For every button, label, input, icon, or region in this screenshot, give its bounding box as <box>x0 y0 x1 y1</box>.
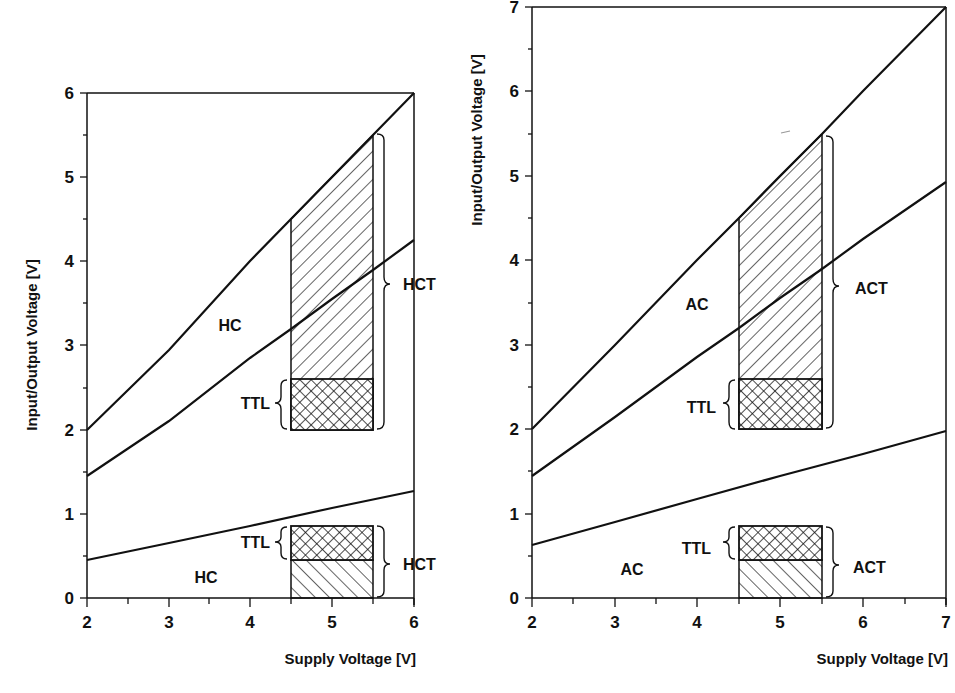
right-ac-label-lower: AC <box>620 561 644 578</box>
right-xtick-2: 4 <box>692 613 702 632</box>
right-x-ticks <box>532 598 946 607</box>
right-ytick-2: 2 <box>510 420 519 439</box>
right-ytick-4: 4 <box>510 251 520 270</box>
right-ttl-high-region <box>739 379 822 429</box>
left-ytick-1: 1 <box>65 505 74 524</box>
left-ytick-0: 0 <box>65 589 74 608</box>
left-xtick-4: 6 <box>409 613 418 632</box>
right-ttl-low-brace <box>723 527 735 559</box>
left-hc-label-lower: HC <box>194 569 218 586</box>
right-y-tick-labels: 0 1 2 3 4 5 6 7 <box>510 0 520 608</box>
right-ttl-high-brace <box>723 380 735 429</box>
right-act-label-lower: ACT <box>853 559 886 576</box>
right-ttl-low-region <box>739 526 822 560</box>
left-ttl-high-brace <box>275 380 287 429</box>
left-x-tick-labels: 2 3 4 5 6 <box>82 613 418 632</box>
right-y-axis-label: Input/Output Voltage [V] <box>468 54 485 225</box>
left-y-axis-label: Input/Output Voltage [V] <box>23 259 40 430</box>
left-y-axis-title: Input/Output Voltage [V] <box>23 259 40 430</box>
stray-mark <box>781 131 790 133</box>
right-ttl-label-lower: TTL <box>682 540 712 557</box>
left-ytick-5: 5 <box>65 168 74 187</box>
right-ytick-1: 1 <box>510 505 519 524</box>
left-ytick-2: 2 <box>65 421 74 440</box>
right-y-ticks <box>525 7 532 598</box>
left-ytick-6: 6 <box>65 84 74 103</box>
left-ytick-4: 4 <box>65 252 75 271</box>
right-act-low-brace <box>826 527 839 597</box>
right-xtick-3: 5 <box>775 613 784 632</box>
left-hc-label-upper: HC <box>218 317 242 334</box>
left-xtick-2: 4 <box>245 613 255 632</box>
left-ttl-label-lower: TTL <box>241 534 271 551</box>
left-x-ticks <box>87 598 414 607</box>
right-ytick-6: 6 <box>510 82 519 101</box>
left-hct-high-brace <box>377 134 390 429</box>
left-hct-label-upper: HCT <box>403 276 436 293</box>
right-x-tick-labels: 2 3 4 5 6 7 <box>527 613 950 632</box>
right-xtick-4: 6 <box>858 613 867 632</box>
left-hct-low-region <box>291 560 373 598</box>
right-ytick-0: 0 <box>510 589 519 608</box>
left-xtick-1: 3 <box>164 613 173 632</box>
right-ac-label-upper: AC <box>685 296 709 313</box>
right-xtick-0: 2 <box>527 613 536 632</box>
left-hct-low-brace <box>377 526 390 597</box>
right-act-low-region <box>739 560 822 598</box>
left-xtick-0: 2 <box>82 613 91 632</box>
right-xtick-5: 7 <box>941 613 950 632</box>
left-y-tick-labels: 0 1 2 3 4 5 6 <box>65 84 75 608</box>
left-y-ticks <box>80 93 87 598</box>
right-x-axis-label: Supply Voltage [V] <box>817 650 948 667</box>
left-ttl-low-region <box>291 526 373 560</box>
right-xtick-1: 3 <box>610 613 619 632</box>
right-ytick-7: 7 <box>510 0 519 17</box>
right-act-high-brace <box>826 136 839 428</box>
chart-canvas: Input/Output Voltage [V] 0 1 2 3 4 5 6 <box>0 0 955 693</box>
left-hct-label-lower: HCT <box>403 556 436 573</box>
right-chart: Input/Output Voltage [V] 0 1 2 3 4 5 6 7 <box>468 0 951 667</box>
left-ytick-3: 3 <box>65 336 74 355</box>
left-xtick-3: 5 <box>327 613 336 632</box>
left-ttl-low-brace <box>275 527 287 559</box>
left-x-axis-label: Supply Voltage [V] <box>285 650 416 667</box>
left-ttl-label-upper: TTL <box>241 395 271 412</box>
right-ttl-label-upper: TTL <box>687 399 717 416</box>
right-ytick-5: 5 <box>510 167 519 186</box>
right-act-label-upper: ACT <box>855 280 888 297</box>
right-ytick-3: 3 <box>510 336 519 355</box>
left-ttl-high-region <box>291 379 373 430</box>
left-chart: Input/Output Voltage [V] 0 1 2 3 4 5 6 <box>23 84 436 667</box>
